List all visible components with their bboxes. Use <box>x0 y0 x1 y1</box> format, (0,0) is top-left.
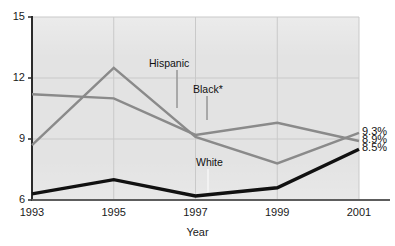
x-tick-label: 1997 <box>173 206 219 218</box>
x-tick-label: 2001 <box>336 206 382 218</box>
y-tick-label: 12 <box>0 71 25 83</box>
annotation-white: White <box>196 156 223 168</box>
annotation-hispanic: Hispanic <box>149 57 189 69</box>
x-tick-label: 1999 <box>254 206 300 218</box>
end-label-white: 8.5% <box>362 141 387 153</box>
y-tick-label: 15 <box>0 10 25 22</box>
y-tick-label: 9 <box>0 132 25 144</box>
line-chart: 691215 19931995199719992001 Year Hispani… <box>0 0 395 246</box>
x-axis-title: Year <box>0 226 395 238</box>
x-tick-label: 1995 <box>91 206 137 218</box>
y-tick-label: 6 <box>0 193 25 205</box>
x-tick-label: 1993 <box>9 206 55 218</box>
axis-lines <box>31 16 390 200</box>
annotation-black: Black* <box>193 83 223 95</box>
